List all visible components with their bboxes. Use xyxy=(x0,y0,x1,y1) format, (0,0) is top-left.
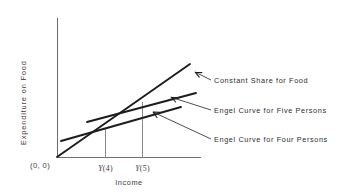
y-axis-label: Expenditure on Food xyxy=(19,60,28,145)
x-tick-label-y4: Y(4) xyxy=(98,164,113,173)
annotation-leaders xyxy=(153,72,211,139)
x-tick-label-y5-index: (5) xyxy=(140,164,150,173)
x-axis-label: Income xyxy=(115,178,143,187)
leader-line-four-persons xyxy=(154,113,211,140)
x-tick-label-y5: Y(5) xyxy=(135,164,150,173)
annotation-constant-share-for-food: Constant Share for Food xyxy=(214,76,308,85)
origin-label: (0, 0) xyxy=(30,161,50,170)
engel-curve-figure: Expenditure on Food (0, 0) Y(4) Y(5) Inc… xyxy=(0,0,348,194)
annotation-engel-curve-five-persons: Engel Curve for Five Persons xyxy=(214,106,327,115)
x-tick-label-y4-index: (4) xyxy=(103,164,113,173)
annotation-engel-curve-four-persons: Engel Curve for Four Persons xyxy=(214,135,328,144)
data-lines xyxy=(57,64,196,157)
